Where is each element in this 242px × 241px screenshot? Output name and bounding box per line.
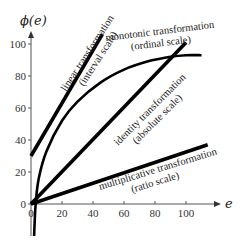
annotation-monotonic: monotonic transformation (ordinal scale): [105, 19, 217, 56]
x-tick-label: 40: [88, 207, 100, 219]
annotation-identity: identity transformation (absolute scale): [112, 71, 198, 157]
y-axis-arrow-icon: [28, 31, 34, 38]
y-tick-label: 100: [10, 38, 27, 50]
x-tick-label: 60: [119, 207, 131, 219]
x-axis-arrow-icon: [214, 201, 221, 207]
annotation-multiplicative: multiplicative transformation (ratio sca…: [97, 145, 222, 204]
y-tick-label: 0: [21, 198, 27, 210]
x-tick-label: 20: [57, 207, 69, 219]
x-tick-label: 100: [178, 207, 195, 219]
y-tick-label: 60: [15, 102, 27, 114]
y-tick-label: 20: [15, 166, 27, 178]
y-tick-label: 40: [15, 134, 27, 146]
transformation-chart: ϕ(e) e 020406080100020406080100 linear t…: [0, 0, 242, 241]
y-axis-title: ϕ(e): [20, 13, 47, 28]
x-axis-title: e: [225, 196, 233, 211]
y-tick-label: 80: [15, 70, 27, 82]
x-tick-label: 0: [28, 207, 34, 219]
x-tick-label: 80: [150, 207, 162, 219]
